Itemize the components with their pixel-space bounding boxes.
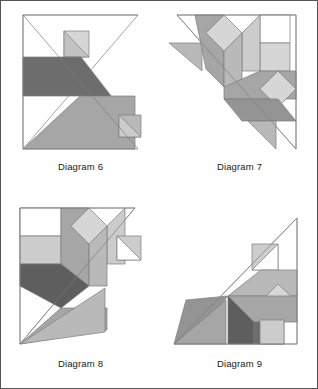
diagram-6-label: Diagram 6 [1, 161, 160, 172]
d7-bottom-small-triangle [248, 121, 276, 149]
d8-left-light-band [20, 236, 61, 264]
diagram-7-graphic [160, 1, 318, 166]
diagram-8-graphic [1, 196, 160, 361]
diagram-8-cell: Diagram 8 [1, 196, 160, 389]
d8-upper-left-white [20, 208, 61, 236]
diagram-6-graphic [1, 1, 160, 166]
diagram-9-label: Diagram 9 [160, 358, 318, 369]
d7-upper-right-square [260, 43, 290, 71]
d7-upper-right-white [260, 15, 290, 43]
diagram-7-cell: Diagram 7 [160, 1, 318, 195]
diagram-8-label: Diagram 8 [1, 358, 160, 369]
diagram-7-label: Diagram 7 [160, 161, 318, 172]
d7-left-small-triangle [169, 43, 202, 71]
diagram-6-cell: Diagram 6 [1, 1, 160, 195]
d9-lower-right-square [260, 320, 284, 344]
diagram-9-cell: Diagram 9 [160, 196, 318, 389]
diagram-9-graphic [160, 196, 318, 361]
figure-sheet: Diagram 6 Diagram 7 [0, 0, 318, 389]
